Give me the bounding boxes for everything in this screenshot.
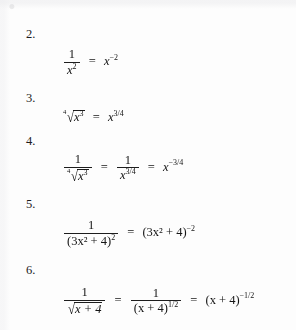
result-exponent-negative-2: −2 (109, 53, 118, 62)
radicand: x + 4 (74, 302, 102, 316)
result-exponent-negative-one-half: −1/2 (240, 291, 255, 300)
fraction-denominator: 4√x3 (64, 167, 92, 183)
fraction-numerator: 1 (64, 286, 105, 300)
radicand: x3 (73, 110, 85, 124)
document-page: 2. 1 x2 = x−2 3. 4√x3 = x3/4 4. 1 4√x3 (0, 0, 296, 330)
equation-5: 1 (3x² + 4)2 = (3x² + 4)−2 (63, 219, 195, 247)
equation-2: 1 x2 = x−2 (63, 48, 118, 76)
fraction-denominator: (x + 4)1/2 (131, 300, 181, 315)
binomial-group: (3x² + 4) (67, 234, 111, 248)
fraction-denominator: x3/4 (117, 167, 139, 182)
result-binomial-group: (3x² + 4) (142, 225, 186, 239)
fraction-denominator: √x + 4 (64, 300, 105, 316)
fraction-denominator: (3x² + 4)2 (64, 233, 118, 248)
radical-sign-icon: √ (68, 301, 75, 316)
equals-sign: = (93, 111, 100, 124)
fraction-numerator: 1 (131, 287, 181, 301)
radical-sign-icon: √ (71, 168, 78, 183)
fraction-numerator: 1 (64, 219, 118, 233)
fraction-one-over-x-three-fourths: 1 x3/4 (117, 154, 139, 182)
fraction-one-over-sqrt-binomial: 1 √x + 4 (64, 286, 105, 315)
equals-sign: = (89, 55, 96, 68)
exponent-2: 2 (111, 232, 115, 241)
fraction-numerator: 1 (64, 48, 80, 62)
fraction-numerator: 1 (117, 154, 139, 168)
result-binomial-group: (x + 4) (205, 293, 239, 307)
radical-sign-icon: √ (67, 110, 74, 125)
item-number-6: 6. (26, 264, 36, 277)
equation-6: 1 √x + 4 = 1 (x + 4)1/2 = (x + 4)−1/2 (63, 286, 254, 315)
equation-4: 1 4√x3 = 1 x3/4 = x−3/4 (63, 153, 183, 182)
exponent-three-fourths: 3/4 (125, 167, 135, 176)
equals-sign: = (127, 226, 134, 239)
equals-sign-1: = (115, 294, 122, 307)
fourth-root-radical: 4√x3 (67, 169, 89, 183)
equals-sign-2: = (148, 161, 155, 174)
square-root-radical: √x + 4 (67, 302, 102, 316)
fraction-one-over-fourth-root: 1 4√x3 (64, 153, 92, 182)
binomial-group: (x + 4) (134, 301, 168, 315)
fraction-one-over-binomial-half-power: 1 (x + 4)1/2 (131, 287, 181, 315)
binomial-x-plus-4: x + 4 (75, 302, 101, 316)
item-number-3: 3. (26, 92, 36, 105)
exponent-2: 2 (73, 61, 77, 70)
radical-index-4: 4 (67, 168, 70, 175)
fraction-numerator: 1 (64, 153, 92, 167)
item-number-2: 2. (26, 28, 36, 41)
fourth-root-radical: 4√x3 (63, 110, 85, 124)
equals-sign-1: = (101, 161, 108, 174)
fraction-one-over-binomial-squared: 1 (3x² + 4)2 (64, 219, 118, 247)
fraction-denominator: x2 (64, 62, 80, 77)
exponent-3: 3 (84, 167, 88, 176)
equals-sign-2: = (190, 294, 197, 307)
exponent-one-half: 1/2 (168, 300, 178, 309)
item-number-5: 5. (26, 198, 36, 211)
equation-3: 4√x3 = x3/4 (63, 110, 124, 124)
result-exponent-three-fourths: 3/4 (113, 109, 123, 118)
fraction-one-over-x-squared: 1 x2 (64, 48, 80, 76)
item-number-4: 4. (26, 135, 36, 148)
exponent-3: 3 (80, 109, 84, 118)
result-exponent-negative-2: −2 (187, 224, 196, 233)
result-exponent-negative-three-fourths: −3/4 (169, 158, 184, 167)
radicand: x3 (77, 169, 89, 183)
radical-index-4: 4 (63, 109, 66, 116)
